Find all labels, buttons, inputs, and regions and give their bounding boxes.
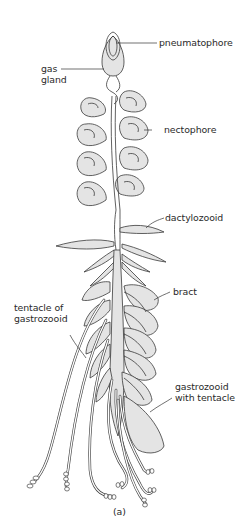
pneumatophore-shape [102, 32, 124, 76]
figure-caption: (a) [113, 506, 126, 517]
label-gastrozooid-line1: gastrozooid [175, 381, 229, 392]
siphonophore-illustration [0, 0, 247, 517]
label-gas-gland-line1: gas [41, 63, 57, 74]
bracts [122, 285, 164, 453]
label-gastrozooid-line2: with tentacle [175, 392, 235, 403]
label-nectophore: nectophore [164, 124, 216, 135]
siphonophore-diagram: pneumatophore gas gland nectophore dacty… [0, 0, 247, 517]
nectophores [77, 91, 148, 206]
label-dactylozooid: dactylozooid [165, 212, 223, 223]
label-pneumatophore: pneumatophore [159, 37, 233, 48]
label-gas-gland-line2: gland [41, 74, 67, 85]
label-tentacle-line1: tentacle of [14, 302, 63, 313]
label-tentacle-line2: gastrozooid [14, 313, 68, 324]
label-bract: bract [173, 286, 197, 297]
dactylozooids [56, 225, 166, 286]
